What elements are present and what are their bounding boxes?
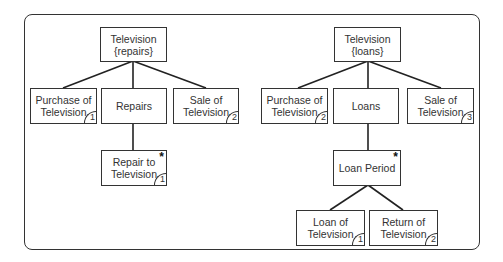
node-label: Repairs bbox=[116, 100, 152, 112]
iteration-asterisk-icon: * bbox=[159, 151, 164, 163]
iteration-asterisk-icon: * bbox=[393, 151, 398, 163]
link-tvrepairs-sale bbox=[133, 61, 206, 88]
node-purchase-of-television: Purchase of Television 2 bbox=[261, 88, 328, 124]
node-label: Return of Television bbox=[380, 216, 426, 240]
node-label: Loan of Television bbox=[307, 216, 353, 240]
node-loan-period: Loan Period * bbox=[333, 150, 401, 186]
node-label: Repair to Television bbox=[111, 156, 157, 180]
node-television-repairs: Television {repairs} bbox=[100, 27, 167, 62]
node-return-of-television: Return of Television 2 bbox=[369, 210, 438, 246]
link-loanperiod-returnoftv bbox=[368, 185, 403, 210]
link-tvloans-purchase bbox=[298, 61, 368, 88]
node-repair-to-television: Repair to Television * 1 bbox=[101, 150, 167, 186]
node-television-loans: Television {loans} bbox=[334, 27, 401, 62]
node-label: Sale of Television bbox=[417, 94, 463, 118]
node-purchase-of-television: Purchase of Television 1 bbox=[30, 88, 97, 124]
link-tvloans-sale bbox=[368, 61, 441, 88]
node-label: Purchase of Television bbox=[35, 94, 91, 118]
node-label: Television {loans} bbox=[344, 33, 390, 57]
node-sale-of-television: Sale of Television 2 bbox=[173, 88, 239, 124]
link-tvrepairs-purchase bbox=[63, 61, 133, 88]
node-loans: Loans bbox=[333, 88, 399, 124]
node-repairs: Repairs bbox=[101, 88, 167, 124]
node-label: Purchase of Television bbox=[266, 94, 322, 118]
node-label: Sale of Television bbox=[183, 94, 229, 118]
node-label: Television {repairs} bbox=[110, 33, 156, 57]
node-sale-of-television: Sale of Television 3 bbox=[407, 88, 474, 124]
node-label: Loan Period bbox=[339, 162, 396, 174]
node-label: Loans bbox=[352, 100, 381, 112]
node-loan-of-television: Loan of Television 1 bbox=[296, 210, 365, 246]
link-loanperiod-loanoftv bbox=[330, 185, 368, 210]
